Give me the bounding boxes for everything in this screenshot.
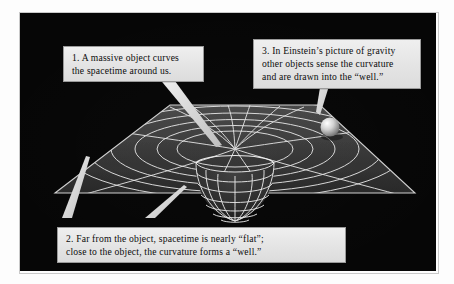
callout-box-3: 3. In Einstein’s picture of gravity othe… <box>253 39 421 89</box>
sphere-body <box>321 118 340 137</box>
callout-box-1: 1. A massive object curves the spacetime… <box>63 46 204 82</box>
figure-page: 1. A massive object curves the spacetime… <box>0 0 454 284</box>
callout-box-2: 2. Far from the object, spacetime is nea… <box>57 227 346 263</box>
